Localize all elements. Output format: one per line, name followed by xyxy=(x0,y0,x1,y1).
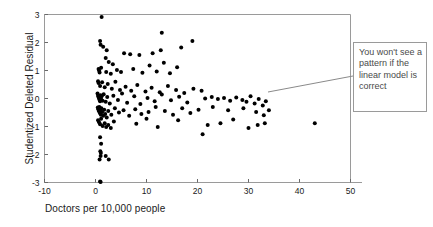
scatter-point xyxy=(171,113,175,117)
scatter-point xyxy=(151,51,155,55)
scatter-point xyxy=(111,62,115,66)
scatter-point xyxy=(106,109,110,113)
scatter-point xyxy=(247,126,251,130)
data-points xyxy=(96,15,317,184)
scatter-point xyxy=(135,83,139,87)
x-axis-label: Doctors per 10,000 people xyxy=(45,203,165,214)
scatter-point xyxy=(140,71,144,75)
scatter-point xyxy=(179,46,183,50)
scatter-point xyxy=(182,91,186,95)
scatter-point xyxy=(104,56,108,60)
scatter-point xyxy=(168,71,172,75)
scatter-point xyxy=(138,102,142,106)
scatter-point xyxy=(98,39,102,43)
scatter-point xyxy=(102,108,106,112)
scatter-point xyxy=(150,86,154,90)
scatter-point xyxy=(101,45,105,49)
scatter-point xyxy=(119,70,123,74)
scatter-point xyxy=(177,95,181,99)
y-tick-label: 1 xyxy=(35,66,40,76)
scatter-point xyxy=(153,99,157,103)
scatter-point xyxy=(139,112,143,116)
scatter-point xyxy=(185,100,189,104)
scatter-point xyxy=(110,87,114,91)
scatter-point xyxy=(125,101,129,105)
scatter-point xyxy=(99,154,103,158)
scatter-point xyxy=(261,104,265,108)
scatter-point xyxy=(263,121,267,125)
scatter-point xyxy=(103,121,107,125)
scatter-point xyxy=(98,158,102,162)
scatter-point xyxy=(169,98,173,102)
y-tick-label: 0 xyxy=(35,94,40,104)
scatter-point xyxy=(108,102,112,106)
scatter-point xyxy=(162,61,166,65)
scatter-point xyxy=(267,108,271,112)
y-tick-label: 2 xyxy=(35,38,40,48)
scatter-point xyxy=(111,94,115,98)
scatter-point xyxy=(103,85,107,89)
x-tick-label: 0 xyxy=(93,186,98,196)
x-tick-label: 20 xyxy=(193,186,203,196)
scatter-point xyxy=(98,135,102,139)
scatter-point xyxy=(105,116,109,120)
scatter-point xyxy=(256,123,260,127)
scatter-point xyxy=(241,106,245,110)
scatter-point xyxy=(122,51,126,55)
scatter-point xyxy=(211,105,215,109)
scatter-point xyxy=(155,70,159,74)
scatter-point xyxy=(166,84,170,88)
scatter-point xyxy=(122,108,126,112)
scatter-point xyxy=(262,113,266,117)
scatter-point xyxy=(160,93,164,97)
scatter-point xyxy=(132,94,136,98)
scatter-point xyxy=(104,100,108,104)
scatter-point xyxy=(210,95,214,99)
scatter-point xyxy=(249,94,253,98)
scatter-point xyxy=(99,142,103,146)
scatter-point xyxy=(112,119,116,123)
scatter-point xyxy=(107,158,111,162)
plot-canvas: -3-2-10123 -1001020304050 xyxy=(0,0,433,227)
scatter-point xyxy=(124,85,128,89)
scatter-point xyxy=(113,80,117,84)
scatter-point xyxy=(200,89,204,93)
scatter-point xyxy=(218,121,222,125)
scatter-point xyxy=(197,108,201,112)
scatter-point xyxy=(163,109,167,113)
scatter-point xyxy=(109,126,113,130)
scatter-point xyxy=(98,84,102,88)
y-axis-label: Studentized Deleted Residual xyxy=(24,14,35,184)
scatter-point xyxy=(226,108,230,112)
scatter-point xyxy=(240,98,244,102)
scatter-point xyxy=(103,112,107,116)
x-axis-ticks: -1001020304050 xyxy=(38,179,355,196)
scatter-point xyxy=(116,98,120,102)
scatter-point xyxy=(201,132,205,136)
scatter-point xyxy=(190,39,194,43)
scatter-point xyxy=(102,92,106,96)
scatter-point xyxy=(120,91,124,95)
scatter-point xyxy=(146,96,150,100)
scatter-point xyxy=(99,180,103,184)
scatter-point xyxy=(131,67,135,71)
scatter-point xyxy=(313,121,317,125)
scatter-point xyxy=(188,111,192,115)
scatter-point xyxy=(145,117,149,121)
scatter-point xyxy=(137,53,141,57)
scatter-point xyxy=(222,96,226,100)
scatter-point xyxy=(143,90,147,94)
scatter-point xyxy=(156,125,160,129)
scatter-point xyxy=(175,65,179,69)
scatter-point xyxy=(100,15,104,19)
scatter-point xyxy=(234,95,238,99)
scatter-point xyxy=(257,97,261,101)
scatter-point xyxy=(99,66,103,70)
y-tick-label: 3 xyxy=(35,10,40,20)
scatter-point xyxy=(147,110,151,114)
scatter-point xyxy=(264,99,268,103)
plot-border xyxy=(45,15,351,183)
scatter-point xyxy=(216,97,220,101)
scatter-point xyxy=(100,80,104,84)
scatter-point xyxy=(109,72,113,76)
